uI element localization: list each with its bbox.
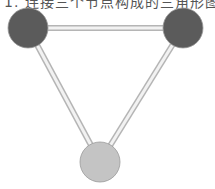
node-top-right: [163, 8, 203, 48]
edge-inner-top-right-bottom: [100, 28, 183, 162]
node-bottom: [80, 142, 120, 182]
nodes-layer: [8, 8, 203, 182]
triangle-graph: [0, 0, 215, 189]
diagram-canvas: 1. 连接三个节点构成的三角形图: [0, 0, 215, 189]
node-top-left: [8, 8, 48, 48]
edge-inner-top-left-bottom: [28, 28, 100, 162]
edges-layer: [28, 28, 183, 162]
